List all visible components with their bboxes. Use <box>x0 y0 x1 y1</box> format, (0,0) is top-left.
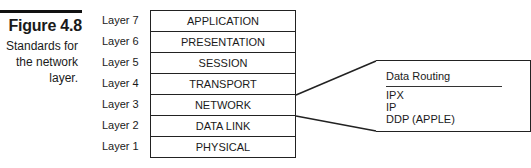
callout-divider <box>386 86 502 87</box>
callout-item: DDP (APPLE) <box>386 113 455 125</box>
callout-item: IPX <box>386 89 455 101</box>
data-routing-callout: Data Routing IPX IP DDP (APPLE) <box>376 60 531 132</box>
callout-item: IP <box>386 101 455 113</box>
callout-title: Data Routing <box>386 70 450 82</box>
callout-items: IPX IP DDP (APPLE) <box>386 89 455 125</box>
